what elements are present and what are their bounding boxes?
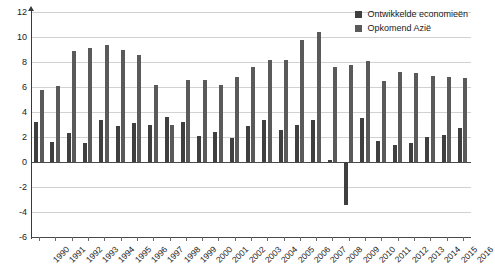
legend-swatch-icon-asia bbox=[355, 25, 362, 32]
bars-layer bbox=[31, 12, 471, 237]
y-tick-label-12: 12 bbox=[17, 8, 27, 17]
bar-2012-series0 bbox=[393, 145, 397, 163]
x-tick-label-2011: 2011 bbox=[394, 245, 413, 264]
y-axis-line bbox=[31, 8, 32, 239]
bar-2009-series1 bbox=[349, 65, 353, 163]
bar-2011-series1 bbox=[382, 81, 386, 162]
y-tick-label--4: -4 bbox=[19, 208, 27, 217]
y-tick-label-8: 8 bbox=[22, 58, 27, 67]
y-tick-label--2: -2 bbox=[19, 183, 27, 192]
bar-2006-series1 bbox=[300, 40, 304, 163]
legend-item-developed: Ontwikkelde economieën bbox=[355, 8, 468, 20]
bar-2001-series0 bbox=[213, 132, 217, 162]
bar-2015-series0 bbox=[442, 135, 446, 163]
bar-1993-series1 bbox=[88, 48, 92, 162]
legend-item-asia: Opkomend Azië bbox=[355, 22, 468, 34]
bar-2014-series0 bbox=[425, 137, 429, 162]
bar-2006-series0 bbox=[295, 125, 299, 163]
x-axis-labels: 1990199119921993199419951996199719981999… bbox=[0, 241, 478, 274]
bar-1996-series0 bbox=[132, 123, 136, 162]
bar-1993-series0 bbox=[83, 143, 87, 162]
bar-2004-series1 bbox=[268, 60, 272, 163]
legend-swatch-icon-developed bbox=[355, 11, 362, 18]
bar-2011-series0 bbox=[376, 141, 380, 162]
bar-2001-series1 bbox=[219, 85, 223, 163]
x-tick-label-2014: 2014 bbox=[443, 245, 463, 265]
y-axis-labels: 121086420-2-4-6 bbox=[0, 12, 27, 237]
bar-2016-series1 bbox=[463, 78, 467, 162]
bar-1996-series1 bbox=[137, 55, 141, 163]
bar-2008-series0 bbox=[328, 160, 332, 163]
bar-2013-series0 bbox=[409, 143, 413, 162]
y-tick-label-4: 4 bbox=[22, 108, 27, 117]
chart-legend: Ontwikkelde economieën Opkomend Azië bbox=[355, 8, 468, 36]
bar-2012-series1 bbox=[398, 72, 402, 162]
legend-label-developed: Ontwikkelde economieën bbox=[367, 8, 468, 20]
legend-label-asia: Opkomend Azië bbox=[367, 22, 431, 34]
bar-1997-series0 bbox=[148, 125, 152, 163]
bar-1992-series1 bbox=[72, 51, 76, 162]
bar-2003-series1 bbox=[251, 67, 255, 162]
y-axis-arrow-icon bbox=[28, 6, 34, 11]
bar-2005-series1 bbox=[284, 60, 288, 163]
y-tick-label-0: 0 bbox=[22, 158, 27, 167]
y-tick-label-10: 10 bbox=[17, 33, 27, 42]
bar-2000-series0 bbox=[197, 136, 201, 162]
plot-area bbox=[31, 12, 471, 237]
bar-1990-series1 bbox=[40, 90, 44, 163]
x-tick-label-2016: 2016 bbox=[475, 245, 495, 265]
bar-1995-series1 bbox=[121, 50, 125, 163]
bar-2013-series1 bbox=[414, 73, 418, 162]
x-tick-label-2004: 2004 bbox=[280, 245, 300, 265]
bar-1992-series0 bbox=[67, 133, 71, 162]
bar-1998-series0 bbox=[165, 117, 169, 162]
bar-2014-series1 bbox=[431, 76, 435, 162]
bar-1994-series0 bbox=[99, 120, 103, 163]
bar-2002-series0 bbox=[230, 138, 234, 162]
bar-2007-series1 bbox=[317, 32, 321, 162]
bar-1999-series1 bbox=[186, 80, 190, 163]
x-tick-label-1994: 1994 bbox=[117, 245, 137, 265]
bar-2003-series0 bbox=[246, 126, 250, 162]
bar-2005-series0 bbox=[279, 130, 283, 163]
bar-2010-series1 bbox=[366, 61, 370, 162]
bar-1991-series0 bbox=[50, 142, 54, 162]
y-tick-label-6: 6 bbox=[22, 83, 27, 92]
bar-2009-series0 bbox=[344, 162, 348, 205]
bar-1991-series1 bbox=[56, 86, 60, 162]
bar-2000-series1 bbox=[203, 80, 207, 163]
bar-2002-series1 bbox=[235, 77, 239, 162]
bar-1994-series1 bbox=[105, 45, 109, 163]
bar-2010-series0 bbox=[360, 118, 364, 162]
bar-1999-series0 bbox=[181, 122, 185, 162]
bar-2007-series0 bbox=[311, 120, 315, 163]
x-tick-label-1997: 1997 bbox=[166, 245, 186, 265]
bar-2004-series0 bbox=[262, 120, 266, 163]
bar-1997-series1 bbox=[154, 85, 158, 163]
y-tick-label-2: 2 bbox=[22, 133, 27, 142]
bar-2015-series1 bbox=[447, 77, 451, 162]
bar-1995-series0 bbox=[116, 126, 120, 162]
bar-2016-series0 bbox=[458, 128, 462, 162]
bar-2008-series1 bbox=[333, 67, 337, 162]
bar-1990-series0 bbox=[34, 122, 38, 162]
bar-1998-series1 bbox=[170, 125, 174, 163]
